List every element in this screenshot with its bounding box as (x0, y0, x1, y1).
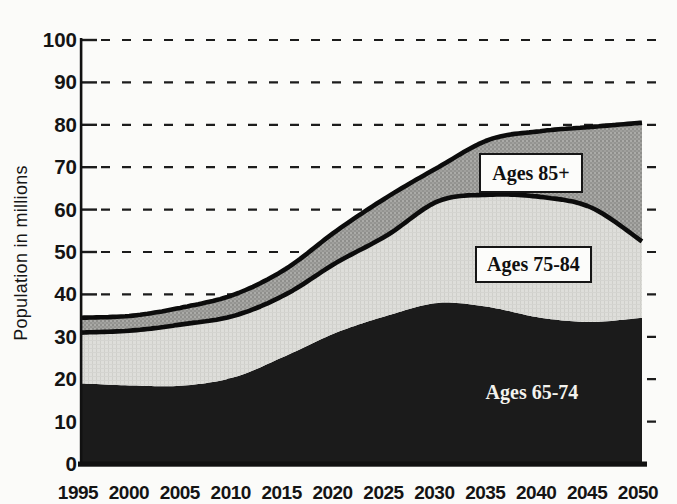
x-tick-label: 2010 (211, 482, 251, 503)
label-ages-85-plus-text: Ages 85+ (492, 162, 570, 185)
y-tick-label: 70 (54, 155, 77, 178)
x-tick-label: 2030 (414, 482, 454, 503)
y-tick-label: 90 (54, 70, 77, 93)
population-area-chart: 0102030405060708090100199520002005201020… (0, 0, 677, 504)
x-tick-label: 2025 (363, 482, 404, 503)
x-axis-line (78, 462, 647, 467)
x-tick-label: 2045 (567, 482, 608, 503)
x-tick-label: 2040 (516, 482, 556, 503)
x-tick-label: 2015 (261, 482, 302, 503)
y-tick-label: 0 (66, 452, 77, 475)
x-tick-label: 2020 (312, 482, 352, 503)
x-tick-label: 2050 (618, 482, 658, 503)
y-tick-label: 80 (54, 113, 77, 136)
y-tick-label: 20 (54, 367, 77, 390)
y-tick-label: 10 (54, 410, 77, 433)
y-tick-label: 60 (54, 198, 77, 221)
x-tick-label: 1995 (58, 482, 99, 503)
label-ages-65-74: Ages 65-74 (478, 378, 586, 406)
x-tick-label: 2005 (160, 482, 201, 503)
y-tick-label: 100 (43, 28, 77, 51)
y-tick-label: 30 (54, 325, 77, 348)
x-tick-label: 2000 (109, 482, 149, 503)
label-ages-75-84-text: Ages 75-84 (487, 253, 580, 276)
y-axis-title: Population in millions (11, 165, 32, 341)
label-ages-65-74-text: Ages 65-74 (486, 381, 579, 404)
x-tick-label: 2035 (465, 482, 506, 503)
y-tick-label: 50 (54, 240, 77, 263)
scanned-chart-page: 0102030405060708090100199520002005201020… (0, 0, 677, 504)
y-tick-label: 40 (54, 282, 77, 305)
label-ages-85-plus: Ages 85+ (479, 153, 583, 193)
y-axis-line (80, 38, 83, 466)
label-ages-75-84: Ages 75-84 (475, 246, 592, 283)
